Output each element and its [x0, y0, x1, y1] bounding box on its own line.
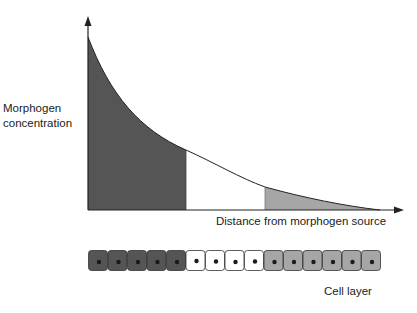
- x-axis-label: Distance from morphogen source: [216, 214, 386, 229]
- cell-layer-label: Cell layer: [324, 284, 372, 299]
- y-axis-label-line1: Morphogen: [3, 101, 72, 116]
- y-axis-label-line2: concentration: [3, 116, 72, 131]
- y-axis-label: Morphogen concentration: [3, 101, 72, 131]
- y-axis-arrow-icon: [85, 16, 92, 26]
- x-axis-arrow-icon: [394, 207, 404, 214]
- cell-layer: [89, 251, 381, 271]
- low-concentration-region: [265, 187, 380, 210]
- high-concentration-region: [88, 37, 186, 210]
- morphogen-gradient-diagram: [0, 0, 417, 313]
